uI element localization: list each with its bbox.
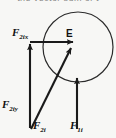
- force-vector-figure: the vector sum of t F2ix F2iy F2i F1i E: [0, 0, 116, 138]
- vector-label-f2iy-sub: 2iy: [9, 105, 18, 113]
- vector-label-f2ix-sub: 2ix: [19, 33, 28, 41]
- vector-f2i-arrow: [31, 48, 71, 129]
- point-label-e: E: [66, 29, 73, 39]
- vector-label-f2iy: F2iy: [2, 99, 18, 113]
- diagram-canvas: [0, 0, 116, 138]
- vector-label-f1i-sub: 1i: [77, 126, 82, 134]
- vector-label-f2i-sub: 2i: [40, 126, 45, 134]
- charge-circle: [43, 12, 113, 82]
- vector-label-f1i: F1i: [70, 120, 83, 134]
- vector-label-f2i: F2i: [33, 120, 46, 134]
- vector-label-f2ix: F2ix: [12, 27, 28, 41]
